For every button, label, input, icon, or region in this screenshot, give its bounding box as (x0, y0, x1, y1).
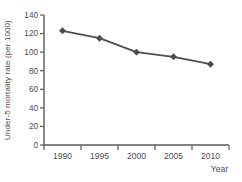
under5-mortality-line-chart: Under-5 mortality rate (per 1000) 020406… (0, 0, 242, 182)
x-tick-label: 1995 (90, 151, 109, 161)
data-point-marker (207, 61, 213, 67)
x-tick-label: 2005 (164, 151, 183, 161)
y-tick-label: 0 (33, 141, 38, 150)
y-tick-label: 120 (24, 29, 38, 38)
axis-lines (44, 15, 229, 145)
x-tick-label: 1990 (53, 151, 72, 161)
y-tick-label: 100 (24, 48, 38, 57)
y-tick-label: 80 (29, 67, 39, 76)
y-tick-label: 40 (29, 104, 39, 113)
data-point-marker (59, 28, 65, 34)
y-tick-label: 20 (29, 122, 39, 131)
data-point-marker (96, 35, 102, 41)
data-point-marker (170, 54, 176, 60)
x-tick-label: 2000 (127, 151, 146, 161)
data-point-marker (133, 49, 139, 55)
x-tick-label: 2010 (201, 151, 220, 161)
x-axis-title: Year (211, 164, 228, 174)
data-line (63, 31, 211, 64)
y-tick-label: 60 (29, 85, 39, 94)
y-tick-label: 140 (24, 11, 38, 20)
chart-svg: 02040608010012014019901995200020052010 (0, 0, 242, 182)
